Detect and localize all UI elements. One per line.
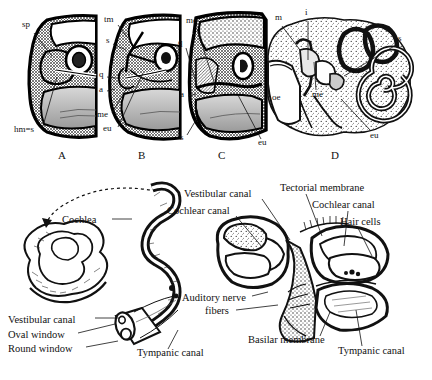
- cochlea-cross-section-artwork: [217, 216, 388, 342]
- panel-letter-a: A: [58, 150, 66, 161]
- panel-b-label-me: me: [97, 110, 108, 119]
- panel-letter-b: B: [138, 150, 145, 161]
- panel-b-label-eu: eu: [103, 124, 112, 133]
- panel-c-label-me: me: [186, 16, 197, 25]
- label-hair-cells: Hair cells: [340, 217, 381, 228]
- label-cochlear-canal-mid: Cochlear canal: [167, 206, 230, 217]
- panel-d-label-oe: oe: [272, 93, 281, 102]
- panel-b-label-s: s: [106, 36, 110, 45]
- label-round-window: Round window: [8, 344, 72, 355]
- label-basilar-membrane: Basilar membrane: [248, 335, 325, 346]
- panel-d-label-me: me: [312, 90, 323, 99]
- panel-b-artwork: [110, 15, 180, 139]
- panel-d-label-eu: eu: [370, 131, 379, 140]
- panel-a-label-hm-s: hm=s: [14, 125, 34, 134]
- label-vestibular-canal-mid: Vestibular canal: [184, 189, 251, 200]
- coiled-cochlea-artwork: [24, 221, 107, 302]
- panel-c-label-a: a: [180, 90, 184, 99]
- panel-b-label-a: a: [99, 85, 103, 94]
- label-tectorial-membrane: Tectorial membrane: [280, 183, 364, 194]
- label-cochlea: Cochlea: [62, 215, 96, 226]
- panel-d-label-s: s: [398, 34, 402, 43]
- label-auditory-nerve: Auditory nerve: [182, 293, 246, 304]
- label-tympanic-canal-right: Tympanic canal: [338, 346, 405, 357]
- panel-letter-d: D: [331, 150, 339, 161]
- panel-b-label-tm: tm: [104, 15, 114, 24]
- panel-letter-c: C: [218, 150, 225, 161]
- label-tympanic-canal-left: Tympanic canal: [137, 348, 204, 359]
- panel-c-label-s: s: [180, 133, 184, 142]
- panel-c-label-q: q: [178, 38, 183, 47]
- panel-d-label-m: m: [275, 13, 282, 22]
- panel-d-label-i: i: [305, 8, 308, 17]
- label-cochlear-canal-right: Cochlear canal: [312, 200, 375, 211]
- panel-c-label-eu: eu: [258, 138, 267, 147]
- panel-a-artwork: [29, 16, 96, 138]
- figure-canvas: sp hm=s tm s q a me eu me q a s eu m i s…: [0, 0, 432, 380]
- panel-a-label-sp: sp: [22, 20, 30, 29]
- panel-c-artwork: [190, 13, 267, 139]
- label-auditory-nerve-fibers: fibers: [205, 306, 229, 317]
- label-vestibular-canal-left: Vestibular canal: [8, 315, 75, 326]
- label-oval-window: Oval window: [8, 330, 65, 341]
- panel-b-label-q: q: [99, 70, 104, 79]
